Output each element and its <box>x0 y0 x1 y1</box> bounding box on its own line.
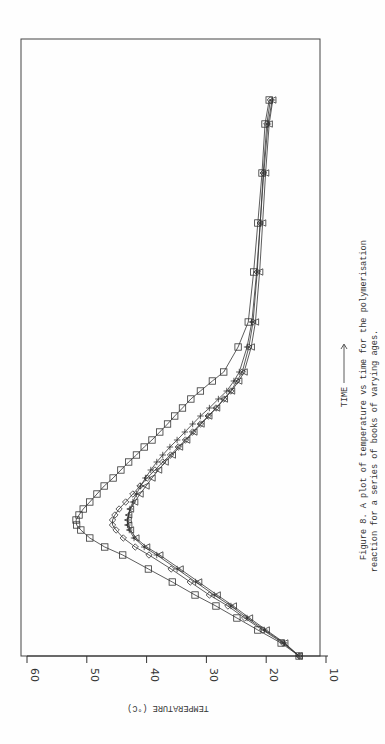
tick-label: 10 <box>327 668 340 682</box>
time-axis-label: TIME <box>340 344 350 407</box>
xlabel-text: TIME <box>340 387 350 407</box>
ylabel-text: TEMPERATURE (°C) <box>127 703 209 713</box>
series-group <box>73 97 302 659</box>
temperature-axis: 605040302010 <box>27 656 340 682</box>
series-diamond <box>109 97 302 659</box>
tick-label: 20 <box>267 668 280 682</box>
document-page: 605040302010 TEMPERATURE (°C) TIME Figur… <box>0 0 385 744</box>
tick-label: 50 <box>88 668 101 682</box>
temperature-axis-label: TEMPERATURE (°C) <box>127 703 209 713</box>
figure-caption: Figure 8. A plot of temperature vs time … <box>359 240 380 572</box>
svg-text:50: 50 <box>88 668 101 682</box>
svg-text:40: 40 <box>148 668 161 682</box>
series-line <box>113 100 300 656</box>
svg-text:30: 30 <box>207 668 220 682</box>
tick-label: 30 <box>207 668 220 682</box>
caption-line-1: Figure 8. A plot of temperature vs time … <box>359 240 369 560</box>
caption-line-2: reaction for a series of books of varyin… <box>370 330 380 572</box>
temperature-time-chart: 605040302010 TEMPERATURE (°C) TIME Figur… <box>0 0 385 744</box>
series-square <box>73 97 302 659</box>
series-line <box>76 100 299 656</box>
svg-text:10: 10 <box>327 668 340 682</box>
plot-frame <box>21 39 320 656</box>
tick-label: 60 <box>28 668 41 682</box>
svg-text:60: 60 <box>28 668 41 682</box>
tick-label: 40 <box>148 668 161 682</box>
svg-text:20: 20 <box>267 668 280 682</box>
